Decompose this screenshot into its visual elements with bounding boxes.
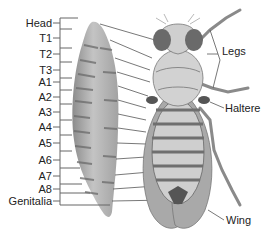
label-t3: T3	[0, 65, 52, 76]
label-genitalia: Genitalia	[0, 196, 52, 207]
label-a3: A3	[0, 107, 52, 118]
label-haltere: Haltere	[225, 103, 260, 114]
label-head: Head	[0, 18, 52, 29]
label-wing: Wing	[226, 215, 251, 226]
label-legs: Legs	[222, 46, 246, 57]
label-a4: A4	[0, 122, 52, 133]
label-a2: A2	[0, 92, 52, 103]
label-t1: T1	[0, 33, 52, 44]
label-a5: A5	[0, 138, 52, 149]
label-a6: A6	[0, 155, 52, 166]
label-a8: A8	[0, 184, 52, 195]
label-a1: A1	[0, 77, 52, 88]
segmentation-diagram: Head T1 T2 T3 A1 A2 A3 A4 A5 A6 A7 A8 Ge…	[0, 0, 275, 238]
adult-fly-icon	[143, 10, 248, 228]
label-a7: A7	[0, 171, 52, 182]
label-t2: T2	[0, 49, 52, 60]
larva-icon	[72, 22, 118, 217]
